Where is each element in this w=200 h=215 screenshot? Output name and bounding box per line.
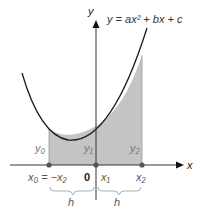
point-x0 [46, 162, 51, 167]
x-axis-arrow-icon [176, 162, 184, 169]
parabola-area-diagram: y x y = ax² + bx + c y₀ y₁ y₂ x₀ = −x₂ 0… [0, 0, 200, 215]
y-axis-arrow-icon [93, 20, 100, 28]
y2-label: y₂ [129, 142, 141, 154]
brace-h-left [50, 187, 94, 195]
x2-label: x₂ [135, 171, 147, 183]
h-label-right: h [114, 196, 120, 208]
y1-label: y₁ [83, 142, 94, 154]
equation-label: y = ax² + bx + c [106, 13, 183, 25]
origin-label: 0 [84, 171, 90, 183]
diagram-canvas: y x y = ax² + bx + c y₀ y₁ y₂ x₀ = −x₂ 0… [0, 0, 200, 215]
brace-h-right [98, 187, 141, 195]
y0-label: y₀ [34, 142, 46, 154]
x0-label: x₀ = −x₂ [27, 171, 68, 183]
x1-label: x₁ [100, 171, 111, 183]
point-x1 [93, 162, 98, 167]
y-axis-label: y [87, 5, 95, 17]
h-label-left: h [68, 196, 74, 208]
point-x2 [139, 162, 144, 167]
x-axis-label: x [186, 159, 193, 171]
